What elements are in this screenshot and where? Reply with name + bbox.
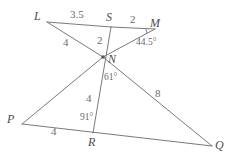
measure-length-SN: 2 — [97, 35, 103, 46]
measure-length-NQ: 8 — [155, 88, 161, 99]
vertex-label-R: R — [88, 136, 95, 148]
segment-S-M — [111, 27, 155, 29]
vertex-label-M: M — [150, 17, 160, 29]
vertex-label-S: S — [106, 11, 112, 23]
vertex-dot-N — [101, 55, 105, 59]
vertex-dots-group — [101, 55, 105, 59]
measure-length-NR: 4 — [86, 93, 92, 104]
segment-N-Q — [103, 57, 212, 146]
angle-arc-M — [146, 29, 147, 34]
measure-length-PR: 4 — [51, 126, 57, 137]
vertex-label-P: P — [7, 113, 14, 125]
angle-angle-at-M: 44.5° — [136, 38, 156, 48]
segment-L-S — [47, 22, 111, 27]
vertex-label-N: N — [108, 53, 116, 65]
vertex-label-Q: Q — [215, 139, 224, 151]
segment-L-N — [47, 22, 103, 57]
measure-length-LN: 4 — [63, 37, 69, 48]
angle-angle-at-R: 91° — [80, 113, 93, 123]
vertex-label-L: L — [34, 10, 41, 22]
geometry-figure: LSMNPRQ 3.5242484 44.5°61°91° — [0, 0, 231, 162]
measure-length-SM: 2 — [130, 14, 136, 25]
measure-length-LS: 3.5 — [70, 9, 84, 20]
angle-angle-at-N: 61° — [104, 73, 117, 83]
